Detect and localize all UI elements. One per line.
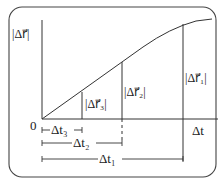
displacement-vs-time-diagram: |Δr⃗| 0 Δt |Δr⃗₁| |Δr⃗₂| |Δr⃗₃| Δt₃ Δt₂ … [0,0,220,182]
label-r2: |Δr⃗₂| [124,85,146,99]
label-r3: |Δr⃗₃| [85,97,107,111]
label-t2: Δt₂ [73,135,90,150]
y-axis-label: |Δr⃗| [12,27,30,41]
label-r1: |Δr⃗₁| [185,71,207,85]
x-axis-label: Δt [192,123,204,138]
origin-label: 0 [30,118,37,133]
label-t1: Δt₁ [99,151,116,166]
displacement-curve [42,19,212,119]
label-t3: Δt₃ [51,122,68,137]
